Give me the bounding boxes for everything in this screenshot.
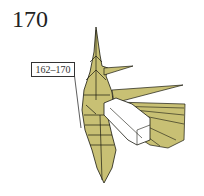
upper-point (104, 66, 133, 75)
callout-leader-line (74, 72, 81, 128)
step-range-callout: 162–170 (31, 62, 75, 77)
origami-figure (0, 0, 204, 196)
